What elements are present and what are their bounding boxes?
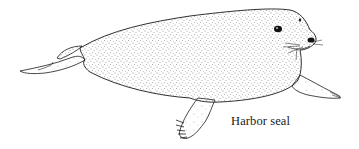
seal-drawing bbox=[0, 0, 359, 149]
seal-body bbox=[80, 9, 316, 102]
front-flipper bbox=[179, 98, 215, 139]
seal-eye bbox=[274, 26, 282, 32]
seal-illustration: Harbor seal bbox=[0, 0, 359, 149]
tail-flippers bbox=[20, 46, 85, 74]
side-flipper bbox=[292, 75, 341, 98]
figure-caption: Harbor seal bbox=[231, 114, 290, 129]
